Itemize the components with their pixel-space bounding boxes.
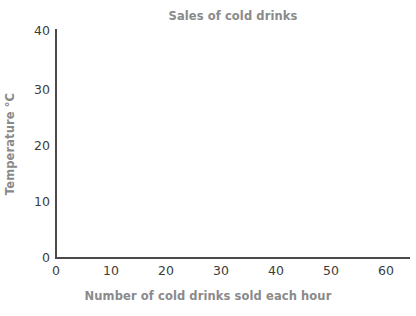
chart-title: Sales of cold drinks xyxy=(56,9,410,23)
x-axis-title: Number of cold drinks sold each hour xyxy=(0,289,416,303)
x-tick-label: 20 xyxy=(146,265,186,278)
y-axis-line xyxy=(55,29,57,259)
x-tick-label: 10 xyxy=(91,265,131,278)
x-axis-line xyxy=(55,257,410,259)
x-tick-label: 30 xyxy=(201,265,241,278)
x-tick-label: 50 xyxy=(311,265,351,278)
x-axis-tick-labels: 0 10 20 30 40 50 60 xyxy=(0,265,416,283)
y-axis-title: Temperature °C xyxy=(1,81,19,207)
y-tick-label: 40 xyxy=(24,25,50,38)
x-tick-label: 60 xyxy=(366,265,406,278)
y-tick-label: 20 xyxy=(24,140,50,153)
y-axis-title-text: Temperature °C xyxy=(3,93,17,195)
y-tick-label: 30 xyxy=(24,84,50,97)
y-tick-label: 0 xyxy=(24,252,50,265)
chart-container: Sales of cold drinks 40 30 20 10 0 0 10 … xyxy=(0,0,416,316)
x-tick-label: 40 xyxy=(256,265,296,278)
y-tick-label: 10 xyxy=(24,196,50,209)
plot-area xyxy=(56,30,410,258)
x-tick-label: 0 xyxy=(36,265,76,278)
